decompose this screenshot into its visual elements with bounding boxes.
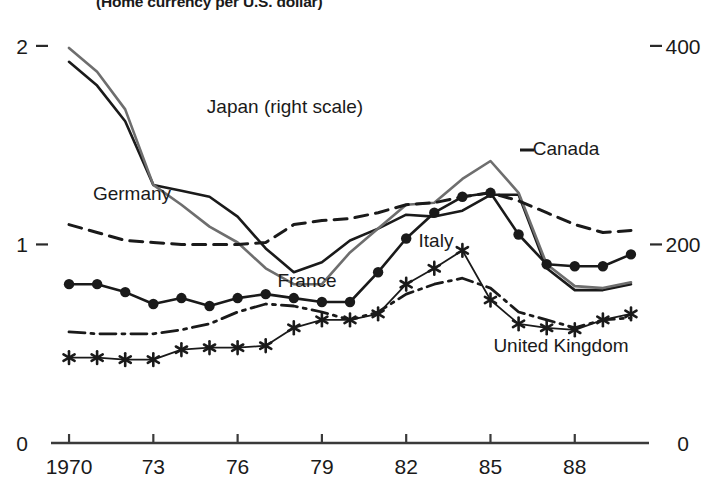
series-line xyxy=(69,193,631,306)
data-point-marker xyxy=(148,299,158,309)
series-annotation-label: Germany xyxy=(93,183,172,204)
data-point-marker xyxy=(261,289,271,299)
x-tick-label: 85 xyxy=(479,455,502,478)
data-point-marker xyxy=(92,279,102,289)
data-point-marker xyxy=(373,267,383,277)
data-point-marker xyxy=(204,301,214,311)
line-chart: 19707376798285880120200400 Japan (right … xyxy=(0,0,712,504)
data-point-marker xyxy=(232,293,242,303)
data-point-marker xyxy=(513,229,523,239)
data-point-marker xyxy=(457,192,467,202)
data-point-marker xyxy=(176,293,186,303)
chart-title: (Home currency per U.S. dollar) xyxy=(96,0,322,11)
series-annotation-label: France xyxy=(277,270,336,291)
series-annotation-label: Italy xyxy=(419,230,454,251)
x-tick-label: 82 xyxy=(395,455,418,478)
y-axis-right-label: 0 xyxy=(677,432,689,455)
series-annotation-label: Japan (right scale) xyxy=(207,96,363,117)
data-point-marker xyxy=(485,188,495,198)
y-axis-left-label: 2 xyxy=(16,35,28,58)
y-axis-left-label: 0 xyxy=(16,432,28,455)
data-point-marker xyxy=(345,297,355,307)
y-axis-left-label: 1 xyxy=(16,233,28,256)
x-tick-label: 1970 xyxy=(46,455,93,478)
y-axis-right-label: 200 xyxy=(665,233,700,256)
data-point-marker xyxy=(64,279,74,289)
series-france xyxy=(64,188,636,312)
data-point-marker xyxy=(120,287,130,297)
data-point-marker xyxy=(626,249,636,259)
y-axis-right-label: 400 xyxy=(665,35,700,58)
x-tick-label: 79 xyxy=(310,455,333,478)
data-point-marker xyxy=(429,207,439,217)
data-point-marker xyxy=(598,261,608,271)
data-point-marker xyxy=(401,233,411,243)
series-germany xyxy=(69,48,631,288)
data-point-marker xyxy=(317,297,327,307)
series-line xyxy=(69,48,631,288)
series-annotation-label: United Kingdom xyxy=(493,335,628,356)
series-annotation-label: Canada xyxy=(533,138,600,159)
data-point-marker xyxy=(289,293,299,303)
x-tick-label: 76 xyxy=(226,455,249,478)
x-tick-label: 88 xyxy=(563,455,586,478)
data-point-marker xyxy=(570,261,580,271)
chart-container: (Home currency per U.S. dollar) 19707376… xyxy=(0,0,712,504)
x-tick-label: 73 xyxy=(142,455,165,478)
data-point-marker xyxy=(541,259,551,269)
